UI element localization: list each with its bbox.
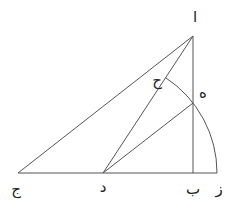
- segment-alif-jim: [18, 36, 193, 173]
- segment-dal-ha: [103, 103, 193, 173]
- label-dal: د: [100, 178, 107, 196]
- label-hha: ح: [152, 72, 162, 90]
- label-ba: ب: [186, 180, 200, 198]
- label-alif: ا: [193, 8, 197, 26]
- segment-alif-dal: [103, 36, 193, 173]
- geometry-diagram: ا ه ح ج د ب ز: [0, 0, 234, 209]
- label-jim: ج: [11, 180, 21, 199]
- arc-zay-ha-hha: [166, 78, 217, 173]
- label-zay: ز: [214, 180, 222, 198]
- label-ha: ه: [199, 84, 207, 102]
